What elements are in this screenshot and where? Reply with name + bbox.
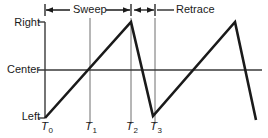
- sweep-span-label: Sweep: [73, 4, 107, 15]
- t3-base: T: [150, 120, 157, 132]
- t0-base: T: [41, 120, 48, 132]
- t3-subscript: 3: [158, 126, 162, 135]
- y-axis-label-center: Center: [0, 64, 40, 75]
- x-axis-label-t2: T2: [126, 121, 137, 133]
- retrace-span-label: Retrace: [176, 4, 215, 15]
- beam-position-polyline: [45, 22, 256, 120]
- t2-base: T: [126, 120, 133, 132]
- waveform-figure: Right Center Left Sweep Retrace T0 T1 T2…: [0, 0, 268, 138]
- retrace-annotation: [134, 4, 174, 16]
- t0-subscript: 0: [49, 126, 53, 135]
- y-axis-label-right: Right: [0, 17, 40, 28]
- t2-subscript: 2: [134, 126, 138, 135]
- waveform-trace: [45, 22, 256, 120]
- x-axis-label-t1: T1: [85, 121, 96, 133]
- t1-base: T: [85, 120, 92, 132]
- gridlines-group: [90, 18, 155, 124]
- x-axis-label-t0: T0: [41, 121, 52, 133]
- x-axis-label-t3: T3: [150, 121, 161, 133]
- t1-subscript: 1: [93, 126, 97, 135]
- waveform-plot: [0, 0, 268, 138]
- y-axis-label-left: Left: [0, 111, 40, 122]
